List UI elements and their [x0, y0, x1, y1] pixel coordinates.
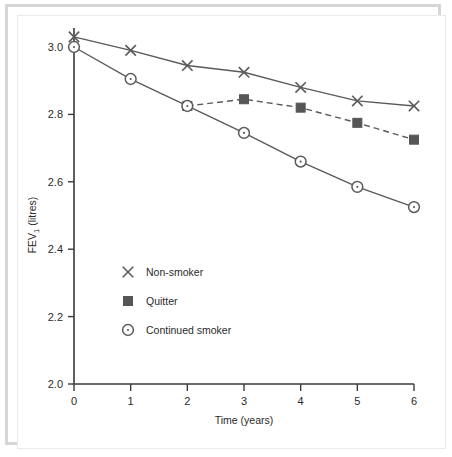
chart-page: 2.02.22.42.62.83.0 0123456 Time (years) … — [0, 0, 452, 457]
y-tick-label: 2.6 — [48, 176, 63, 188]
marker-x — [295, 82, 305, 92]
x-tick-label: 4 — [298, 395, 304, 407]
x-tick-label: 6 — [411, 395, 417, 407]
marker-circle-center-dot — [73, 46, 75, 48]
marker-circle-dot — [69, 42, 80, 53]
marker-square — [124, 297, 133, 306]
x-tick-label: 2 — [184, 395, 190, 407]
chart-legend: Non-smokerQuitterContinued smoker — [123, 266, 232, 336]
marker-circle-center-dot — [186, 105, 188, 107]
legend-item-quitter[interactable]: Quitter — [124, 295, 179, 307]
marker-circle-dot — [125, 74, 136, 85]
marker-circle-center-dot — [130, 78, 132, 80]
legend-item-continued-smoker[interactable]: Continued smoker — [123, 324, 232, 336]
fev1-decline-line-chart: 2.02.22.42.62.83.0 0123456 Time (years) … — [0, 0, 452, 457]
legend-label: Continued smoker — [146, 324, 232, 336]
x-axis-ticks: 0123456 — [71, 384, 417, 407]
y-axis-title-units: (litres) — [26, 197, 38, 229]
y-axis-title-main: FEV — [26, 233, 38, 253]
series-layer — [69, 32, 420, 213]
x-tick-label: 5 — [354, 395, 360, 407]
marker-circle-dot — [409, 202, 420, 213]
marker-circle-dot — [123, 325, 134, 336]
marker-circle-dot — [182, 101, 193, 112]
marker-x — [125, 45, 135, 55]
marker-circle-center-dot — [300, 160, 302, 162]
marker-square — [240, 95, 249, 104]
marker-circle-center-dot — [127, 329, 129, 331]
legend-label: Quitter — [146, 295, 178, 307]
y-tick-label: 2.4 — [48, 243, 63, 255]
y-tick-label: 3.0 — [48, 41, 63, 53]
y-tick-label: 2.0 — [48, 378, 63, 390]
series-continued-smoker — [69, 42, 420, 213]
legend-label: Non-smoker — [146, 266, 204, 278]
marker-circle-dot — [295, 156, 306, 167]
marker-circle-dot — [239, 128, 250, 139]
marker-circle-center-dot — [356, 186, 358, 188]
marker-circle-center-dot — [243, 132, 245, 134]
marker-square — [410, 135, 419, 144]
legend-item-non-smoker[interactable]: Non-smoker — [123, 266, 204, 278]
y-axis-title: FEV1 (litres) — [26, 197, 41, 254]
marker-x — [123, 267, 133, 277]
x-axis-title: Time (years) — [215, 414, 274, 426]
x-tick-label: 0 — [71, 395, 77, 407]
marker-circle-center-dot — [413, 206, 415, 208]
y-tick-label: 2.8 — [48, 108, 63, 120]
y-axis-title-group: FEV1 (litres) — [26, 197, 41, 254]
marker-square — [296, 103, 305, 112]
x-tick-label: 3 — [241, 395, 247, 407]
series-quitter — [183, 95, 419, 144]
y-tick-label: 2.2 — [48, 311, 63, 323]
marker-circle-dot — [352, 181, 363, 192]
x-tick-label: 1 — [128, 395, 134, 407]
marker-square — [353, 118, 362, 127]
y-axis-ticks: 2.02.22.42.62.83.0 — [48, 41, 74, 390]
